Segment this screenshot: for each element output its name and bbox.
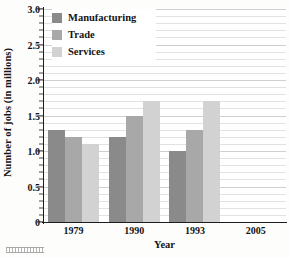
bar-trade-1993	[186, 130, 203, 222]
legend-label: Services	[68, 47, 105, 58]
y-tick-mark-minor	[39, 108, 43, 109]
bar-manufacturing-1979	[48, 130, 65, 222]
gridline-minor	[43, 130, 286, 131]
y-tick-mark-minor	[39, 30, 43, 31]
x-axis-tick-label-2005: 2005	[246, 225, 266, 236]
gridline-minor	[43, 66, 286, 67]
gridline-minor	[43, 123, 286, 124]
y-tick-mark-minor	[39, 122, 43, 123]
y-tick-mark-minor	[39, 143, 43, 144]
gridline-minor	[43, 87, 286, 88]
bar-manufacturing-1993	[169, 151, 186, 222]
y-tick-mark-major	[37, 186, 43, 187]
y-tick-mark-minor	[39, 72, 43, 73]
x-axis-tick-label-1993: 1993	[185, 225, 205, 236]
chart-legend: ManufacturingTradeServices	[52, 9, 156, 61]
y-tick-mark-minor	[39, 94, 43, 95]
bar-trade-1979	[65, 137, 82, 222]
gridline-minor	[43, 73, 286, 74]
legend-swatch-icon	[52, 30, 62, 40]
y-tick-mark-major	[37, 150, 43, 151]
bar-services-1993	[203, 101, 220, 222]
y-tick-mark-minor	[39, 172, 43, 173]
y-tick-mark-minor	[39, 136, 43, 137]
legend-item-services: Services	[52, 45, 156, 59]
legend-swatch-icon	[52, 47, 62, 57]
y-tick-mark-minor	[39, 16, 43, 17]
y-tick-mark-major	[37, 44, 43, 45]
legend-item-manufacturing: Manufacturing	[52, 11, 156, 25]
gridline-minor	[43, 108, 286, 109]
gridline-minor	[43, 101, 286, 102]
gridline-major	[43, 80, 286, 81]
y-tick-mark-major	[37, 79, 43, 80]
bar-services-1979	[82, 144, 99, 222]
y-axis-tick-labels: 00.51.01.52.02.53.0	[14, 0, 40, 258]
y-tick-mark-minor	[39, 58, 43, 59]
y-tick-mark-minor	[39, 207, 43, 208]
legend-label: Trade	[68, 30, 95, 41]
bar-manufacturing-1990	[109, 137, 126, 222]
y-tick-mark-minor	[39, 193, 43, 194]
y-tick-mark-minor	[39, 37, 43, 38]
bar-chart-figure: Number of jobs (in millions) 00.51.01.52…	[0, 0, 289, 258]
legend-swatch-icon	[52, 13, 62, 23]
y-tick-mark-minor	[39, 129, 43, 130]
legend-item-trade: Trade	[52, 28, 156, 42]
bar-services-1990	[143, 101, 160, 222]
y-tick-mark-minor	[39, 179, 43, 180]
y-tick-mark-major	[37, 8, 43, 9]
y-tick-mark-minor	[39, 165, 43, 166]
y-tick-mark-minor	[39, 158, 43, 159]
x-axis-line	[42, 222, 287, 223]
x-axis-tick-label-1979: 1979	[63, 225, 83, 236]
bar-trade-1990	[126, 116, 143, 223]
y-tick-mark-major	[37, 115, 43, 116]
x-axis-tick-label-1990: 1990	[124, 225, 144, 236]
gridline-minor	[43, 94, 286, 95]
scan-artifact	[6, 247, 44, 253]
legend-label: Manufacturing	[68, 13, 136, 24]
y-axis-title-text: Number of jobs (in millions)	[3, 47, 14, 176]
y-tick-mark-minor	[39, 87, 43, 88]
y-tick-mark-minor	[39, 101, 43, 102]
gridline-major	[43, 116, 286, 117]
y-tick-mark-minor	[39, 51, 43, 52]
x-axis-title: Year	[43, 239, 286, 250]
y-tick-mark-major	[37, 221, 43, 222]
y-tick-mark-minor	[39, 200, 43, 201]
y-axis-line	[43, 7, 44, 224]
y-tick-mark-minor	[39, 65, 43, 66]
y-tick-mark-minor	[39, 23, 43, 24]
y-tick-mark-minor	[39, 214, 43, 215]
